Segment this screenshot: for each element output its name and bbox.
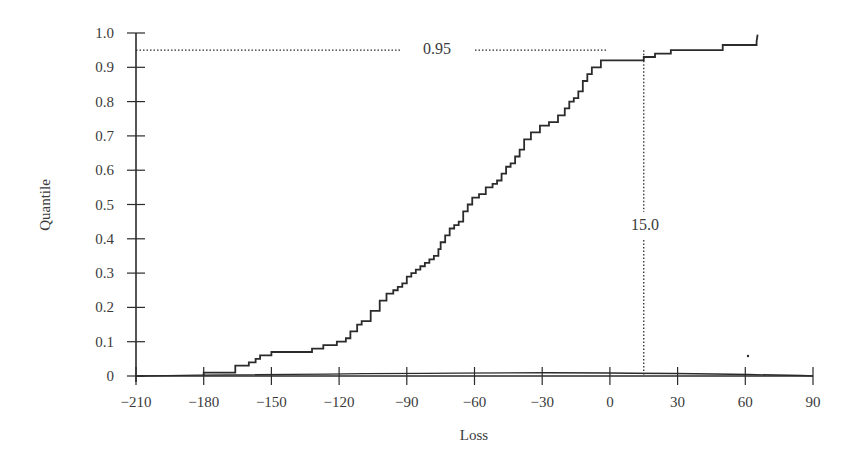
x-tick-label: −150 <box>256 394 287 410</box>
x-tick-label: −210 <box>121 394 152 410</box>
x-tick-label: −60 <box>463 394 486 410</box>
y-axis: 00.10.20.30.40.50.60.70.80.91.0 <box>95 25 145 384</box>
x-tick-label: 90 <box>806 394 821 410</box>
y-tick-label: 0.3 <box>95 265 114 281</box>
y-tick-label: 1.0 <box>95 25 114 41</box>
x-tick-label: −90 <box>395 394 418 410</box>
y-tick-label: 0.6 <box>95 162 114 178</box>
x-tick-label: −180 <box>188 394 219 410</box>
y-tick-label: 0.1 <box>95 334 114 350</box>
y-tick-label: 0.8 <box>95 94 114 110</box>
x-axis-title: Loss <box>460 427 489 443</box>
x-tick-label: 60 <box>738 394 753 410</box>
quantile-chart: −210−180−150−120−90−60−300306090 00.10.2… <box>0 0 853 468</box>
plot-area <box>136 35 813 376</box>
quantile-annotation-label: 0.95 <box>423 40 451 57</box>
y-tick-label: 0.7 <box>95 128 114 144</box>
y-tick-label: 0.5 <box>95 197 114 213</box>
y-axis-title: Quantile <box>37 179 53 231</box>
ecdf-step-line <box>204 35 758 376</box>
var-annotation-label: 15.0 <box>631 216 659 233</box>
stray-dot <box>747 355 749 357</box>
x-tick-label: 30 <box>670 394 685 410</box>
x-tick-label: −120 <box>324 394 355 410</box>
y-tick-label: 0.9 <box>95 59 114 75</box>
y-tick-label: 0.2 <box>95 299 114 315</box>
x-tick-label: −30 <box>530 394 553 410</box>
y-tick-label: 0 <box>107 368 115 384</box>
y-tick-label: 0.4 <box>95 231 114 247</box>
x-tick-label: 0 <box>606 394 614 410</box>
